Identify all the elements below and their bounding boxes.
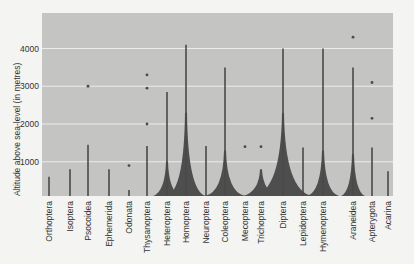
y-tick-label: 2000 bbox=[20, 119, 39, 129]
altitude-chart: 1000200030004000 Altitude above sea-leve… bbox=[0, 0, 414, 264]
category-label: Diptera bbox=[278, 201, 288, 229]
category-label: Heteroptera bbox=[162, 201, 172, 246]
category-label: Apterygota bbox=[367, 201, 377, 242]
y-axis-label: Altitude above sea-level (in metres) bbox=[12, 63, 22, 196]
category-label: Psocoidea bbox=[83, 201, 93, 241]
record-dot bbox=[371, 81, 374, 84]
plot-area bbox=[42, 13, 393, 196]
record-dot bbox=[371, 117, 374, 120]
record-dot bbox=[146, 74, 149, 77]
category-label: Trichoptera bbox=[256, 201, 266, 244]
category-label: Mecoptera bbox=[240, 201, 250, 241]
record-dot bbox=[352, 36, 355, 39]
category-label: Odonata bbox=[124, 201, 134, 234]
y-tick-label: 3000 bbox=[20, 81, 39, 91]
category-label: Neuroptera bbox=[201, 201, 211, 244]
record-dot bbox=[244, 145, 247, 148]
record-dot bbox=[260, 145, 263, 148]
category-label: Homoptera bbox=[181, 201, 191, 243]
y-tick-label: 1000 bbox=[20, 157, 39, 167]
record-dot bbox=[146, 87, 149, 90]
category-label: Lepidoptera bbox=[298, 201, 308, 246]
category-label: Thysanoptera bbox=[142, 201, 152, 253]
category-label: Acarina bbox=[383, 201, 393, 230]
record-dot bbox=[87, 85, 90, 88]
y-tick-label: 4000 bbox=[20, 44, 39, 54]
category-label: Isoptera bbox=[65, 201, 75, 232]
record-dot bbox=[128, 164, 131, 167]
record-dot bbox=[146, 123, 149, 126]
x-axis-category-labels: OrthopteraIsopteraPsocoideaEphemeridaOdo… bbox=[44, 201, 393, 253]
y-axis-ticks: 1000200030004000 bbox=[20, 44, 39, 167]
category-label: Orthoptera bbox=[44, 201, 54, 242]
category-label: Hymenoptera bbox=[318, 201, 328, 252]
category-label: Araneidea bbox=[348, 201, 358, 240]
category-label: Ephemerida bbox=[104, 201, 114, 247]
category-label: Coleoptera bbox=[220, 201, 230, 243]
